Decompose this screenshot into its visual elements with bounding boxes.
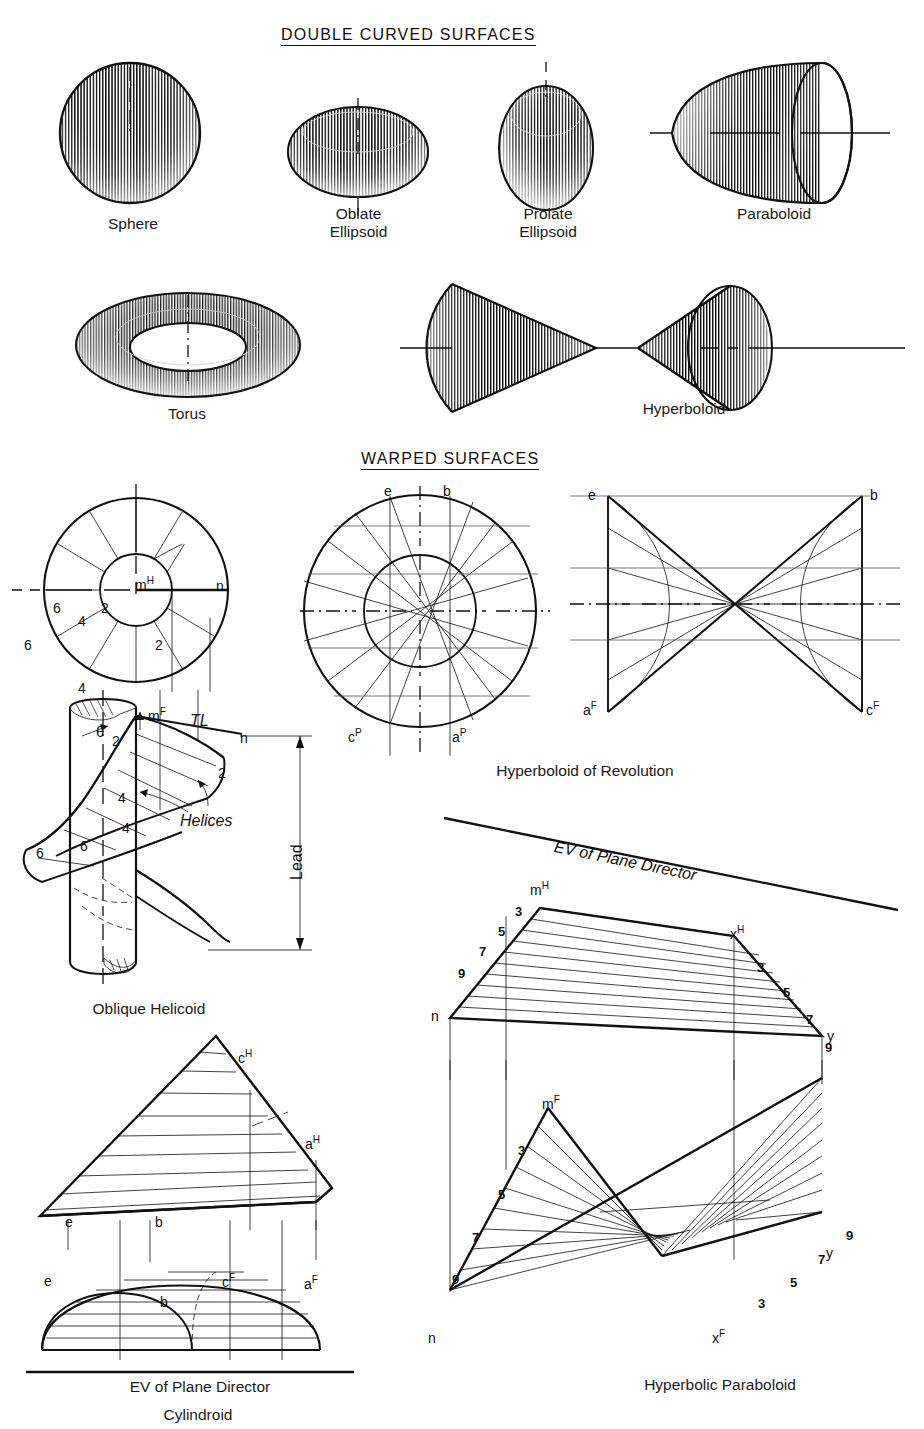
caption-hyperboloid-revolution: Hyperboloid of Revolution [440, 762, 730, 780]
elev-label-theta: θ [96, 723, 104, 740]
cylindroid-plane-director-label: EV of Plane Director [80, 1378, 320, 1396]
plan-label-m: mH [135, 575, 154, 593]
plan-label-cp: cP [348, 727, 362, 745]
hypar-top-label-m: mH [530, 880, 549, 898]
elev-label-b-hyp: b [870, 487, 878, 503]
cylindroid-front-label-b: b [160, 1294, 168, 1310]
hypar-front-left-5: 5 [498, 1187, 505, 1202]
elev-number-2b: 2 [218, 765, 226, 781]
plan-inner-2: 2 [101, 600, 109, 616]
hypar-front-label-n: n [428, 1330, 436, 1346]
hypar-top-label-x: xH [730, 924, 744, 942]
drawing-page: DOUBLE CURVED SURFACES [0, 0, 924, 1429]
prolate-ellipsoid-figure [478, 62, 618, 217]
caption-oblique-helicoid: Oblique Helicoid [24, 1000, 274, 1018]
caption-prolate-line1: Prolate [478, 205, 618, 223]
caption-hyperbolic-paraboloid: Hyperbolic Paraboloid [580, 1376, 860, 1394]
elev-label-helices: Helices [180, 812, 232, 830]
hypar-top-label-n: n [431, 1008, 439, 1024]
cylindroid-top [20, 1030, 380, 1230]
elev-label-n: n [240, 730, 248, 746]
hypar-top-left-9: 9 [458, 966, 465, 981]
hypar-top-left-7: 7 [479, 944, 486, 959]
hyperboloid-revolution-elevation [570, 490, 900, 740]
caption-cylindroid: Cylindroid [118, 1406, 278, 1424]
plan-label-ap: aP [452, 727, 467, 745]
cylindroid-front-label-c: cF [222, 1272, 235, 1290]
caption-paraboloid: Paraboloid [694, 205, 854, 223]
elev-label-m: mF [148, 706, 166, 724]
cylindroid-front-label-a: aF [304, 1274, 318, 1292]
elev-number-6a: 6 [36, 845, 44, 861]
plan-label-n: n [216, 578, 224, 594]
hypar-front-left-3: 3 [518, 1143, 525, 1158]
cylindroid-front [20, 1220, 380, 1380]
oblate-ellipsoid-figure [275, 96, 445, 216]
elev-label-af: aF [583, 700, 597, 718]
hypar-top-right-7: 7 [806, 1012, 813, 1027]
hypar-top-right-9: 9 [825, 1040, 832, 1055]
hyperbolic-paraboloid-front [440, 1060, 910, 1350]
elev-number-4b: 4 [122, 820, 130, 836]
elev-label-e-hyp: e [588, 487, 596, 503]
elev-label-lead: Lead [288, 844, 306, 880]
caption-torus: Torus [122, 405, 252, 423]
elev-number-6b: 6 [80, 838, 88, 854]
hypar-front-label-x: xF [712, 1328, 725, 1346]
hypar-top-left-5: 5 [498, 924, 505, 939]
elev-number-4a: 4 [118, 790, 126, 806]
paraboloid-figure [650, 55, 900, 215]
hypar-front-label-m: mF [542, 1094, 560, 1112]
hypar-front-right-7: 7 [818, 1252, 825, 1267]
torus-figure [62, 285, 322, 405]
oblique-helicoid-elevation [12, 690, 332, 990]
elev-number-2a: 2 [112, 733, 120, 749]
caption-oblate-line1: Oblate [286, 205, 431, 223]
plan-label-e-hyp: e [384, 483, 392, 499]
plan-outer-6: 6 [24, 637, 32, 653]
cylindroid-top-label-a: aH [305, 1134, 320, 1152]
hypar-front-label-y: y [826, 1245, 833, 1261]
hypar-top-right-3: 3 [757, 960, 764, 975]
elev-label-cf: cF [866, 700, 879, 718]
caption-prolate-line2: Ellipsoid [478, 223, 618, 241]
caption-oblate-line2: Ellipsoid [286, 223, 431, 241]
hyperboloid-revolution-plan [300, 486, 550, 756]
cylindroid-front-label-e: e [44, 1273, 52, 1289]
hypar-top-right-5: 5 [783, 985, 790, 1000]
caption-hyperboloid: Hyperboloid [604, 400, 764, 418]
caption-sphere: Sphere [58, 215, 208, 233]
hypar-front-right-5: 5 [790, 1275, 797, 1290]
plan-outer-2: 2 [155, 637, 163, 653]
elev-label-tl: TL [190, 712, 209, 730]
hyperbolic-paraboloid-top [440, 860, 910, 1080]
cylindroid-top-label-c: cH [238, 1048, 252, 1066]
plan-label-b-hyp: b [443, 483, 451, 499]
hyperboloid-figure [400, 278, 910, 418]
plan-inner-6: 6 [53, 600, 61, 616]
hypar-top-left-3: 3 [515, 904, 522, 919]
hypar-front-left-7: 7 [472, 1230, 479, 1245]
sphere-figure [40, 55, 230, 215]
section-title-warped: WARPED SURFACES [361, 450, 539, 470]
section-title-double-curved: DOUBLE CURVED SURFACES [281, 26, 536, 46]
hypar-front-right-3: 3 [758, 1296, 765, 1311]
hypar-front-right-9: 9 [846, 1228, 853, 1243]
plan-inner-4: 4 [78, 613, 86, 629]
hypar-front-left-9: 9 [452, 1272, 459, 1287]
